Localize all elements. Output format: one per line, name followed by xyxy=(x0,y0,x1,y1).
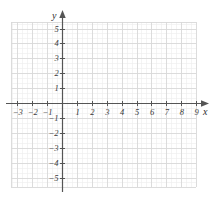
y-tick-label: −3 xyxy=(49,144,59,153)
x-tick-label: 4 xyxy=(120,108,124,117)
y-axis-label: y xyxy=(52,11,56,21)
y-tick-label: −4 xyxy=(49,159,59,168)
y-axis-line xyxy=(59,10,65,192)
x-tick-label: 2 xyxy=(90,108,94,117)
major-gridlines xyxy=(11,22,196,187)
y-tick-label: 2 xyxy=(55,69,59,78)
x-tick-label: 5 xyxy=(135,108,139,117)
x-tick-label: 9 xyxy=(195,108,199,117)
y-tick-label: 4 xyxy=(55,39,59,48)
x-tick-label: −2 xyxy=(28,108,38,117)
minor-gridlines xyxy=(11,22,196,187)
y-tick-label: −1 xyxy=(49,114,59,123)
y-tick-label: 1 xyxy=(55,84,59,93)
x-tick-label: 3 xyxy=(105,108,109,117)
x-tick-label: 1 xyxy=(75,108,79,117)
y-tick-label: 5 xyxy=(55,25,59,34)
y-tick-label: −5 xyxy=(49,174,59,183)
coordinate-plane: y x −3−2−1123456789 54321−1−2−3−4−5 xyxy=(0,0,218,197)
x-tick-label: 8 xyxy=(180,108,184,117)
y-tick-label: 3 xyxy=(55,54,59,63)
x-axis-label: x xyxy=(203,107,207,117)
x-tick-label: 6 xyxy=(150,108,154,117)
y-tick-label: −2 xyxy=(49,129,59,138)
graph-canvas xyxy=(0,0,218,197)
x-tick-label: −3 xyxy=(13,108,23,117)
x-tick-label: 7 xyxy=(165,108,169,117)
